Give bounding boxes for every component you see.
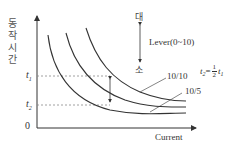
t2-label: t2 <box>26 98 32 111</box>
t1-label: t1 <box>26 69 32 82</box>
formula-eq: = <box>206 66 211 76</box>
formula-rhs-sub: 1 <box>221 71 224 77</box>
fraction-denominator: 2 <box>213 72 217 79</box>
y-axis-label: 동작시간 <box>5 18 19 66</box>
curve-label-10-10: 10/10 <box>167 71 188 81</box>
lever-bottom-label: 소 <box>135 63 143 76</box>
leader-10-5 <box>150 93 182 112</box>
t1-subscript: 1 <box>29 76 32 82</box>
x-axis-label: Current <box>155 132 183 142</box>
lever-top-label: 대 <box>135 10 143 23</box>
formula-fraction: 12 <box>212 64 218 79</box>
curve-label-10-5: 10/5 <box>185 86 201 96</box>
lever-label: Lever(0~10) <box>149 37 194 47</box>
origin-label: 0 <box>25 120 30 131</box>
t2-subscript: 2 <box>29 105 32 111</box>
leader-10-10 <box>140 78 166 92</box>
formula: t2=12t1 <box>200 64 224 79</box>
